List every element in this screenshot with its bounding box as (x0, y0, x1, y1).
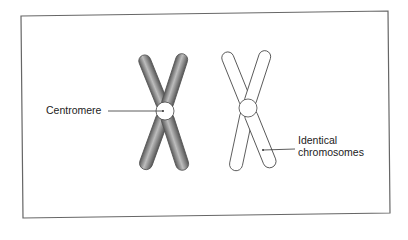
outline-chromosome (220, 49, 278, 172)
identical-label-line2: chromosomes (298, 146, 364, 158)
centromere-label: Centromere (46, 104, 101, 116)
identical-chromosomes-label: Identical chromosomes (298, 134, 364, 158)
shaded-chromosome (137, 52, 190, 172)
identical-label-line1: Identical (298, 134, 364, 146)
